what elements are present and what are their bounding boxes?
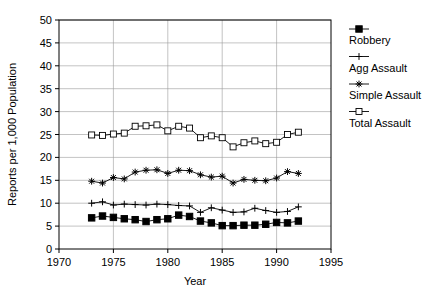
legend-label: Simple Assault [349,89,421,101]
legend-entry-robbery[interactable]: Robbery [349,26,391,46]
legend-entry-agg-assault[interactable]: Agg Assault [349,53,407,73]
marker-open-square [263,141,269,147]
x-axis-tick-label: 1975 [101,256,125,268]
marker-filled-square [252,222,258,228]
marker-open-square [121,130,127,136]
line-chart: 0510152025303540455019701975198019851990… [0,0,437,298]
legend-label: Robbery [349,34,391,46]
x-axis-tick-label: 1995 [319,256,343,268]
marker-open-square [197,135,203,141]
marker-filled-square [208,220,214,226]
marker-filled-square [295,218,301,224]
x-axis-tick-label: 1985 [210,256,234,268]
marker-filled-square [186,213,192,219]
marker-open-square [100,132,106,138]
marker-filled-square [263,221,269,227]
marker-open-square [110,131,116,137]
marker-open-square [89,132,95,138]
marker-open-square [143,123,149,129]
marker-filled-square [219,222,225,228]
marker-open-square [165,128,171,134]
marker-filled-square [284,220,290,226]
marker-filled-square [165,216,171,222]
marker-open-square [274,139,280,145]
x-axis-tick-label: 1980 [156,256,180,268]
x-axis-tick-label: 1990 [264,256,288,268]
marker-filled-square [230,222,236,228]
legend-label: Total Assault [349,117,411,129]
x-axis-tick-label: 1970 [47,256,71,268]
marker-filled-square [241,222,247,228]
marker-filled-square [154,216,160,222]
y-axis-tick-label: 0 [46,243,52,255]
marker-open-square [187,125,193,131]
y-axis-tick-label: 30 [40,106,52,118]
marker-open-square [219,135,225,141]
marker-filled-square [197,218,203,224]
marker-open-square [284,132,290,138]
marker-open-square [241,140,247,146]
marker-open-square [154,122,160,128]
y-axis-title: Reports per 1,000 Population [6,63,18,206]
series-agg-assault [88,198,302,215]
y-axis-tick-label: 45 [40,37,52,49]
marker-filled-square [356,26,362,32]
y-axis-tick-label: 20 [40,151,52,163]
marker-open-square [356,109,362,115]
y-axis-tick-label: 25 [40,129,52,141]
marker-open-square [208,133,214,139]
marker-filled-square [132,216,138,222]
y-axis-tick-label: 40 [40,60,52,72]
marker-filled-square [110,214,116,220]
marker-filled-square [175,212,181,218]
y-axis-tick-label: 50 [40,14,52,26]
marker-open-square [230,144,236,150]
y-axis-tick-label: 5 [46,220,52,232]
chart-canvas: 0510152025303540455019701975198019851990… [0,0,437,298]
legend-label: Agg Assault [349,62,407,74]
x-axis-title: Year [184,275,207,287]
chart-page: 0510152025303540455019701975198019851990… [0,0,437,298]
y-axis-tick-label: 15 [40,174,52,186]
series-simple-assault [88,166,302,186]
marker-filled-square [121,216,127,222]
legend-entry-simple-assault[interactable]: Simple Assault [349,81,421,101]
marker-open-square [176,123,182,129]
marker-filled-square [143,218,149,224]
y-axis-tick-label: 10 [40,197,52,209]
legend-entry-total-assault[interactable]: Total Assault [349,109,411,129]
marker-open-square [295,129,301,135]
marker-filled-square [273,219,279,225]
marker-filled-square [99,213,105,219]
y-axis-tick-label: 35 [40,83,52,95]
marker-open-square [252,138,258,144]
series-total-assault [89,122,302,150]
marker-filled-square [88,215,94,221]
marker-open-square [132,123,138,129]
